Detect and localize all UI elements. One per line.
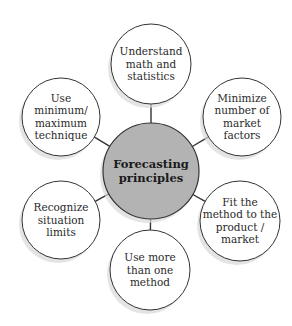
node-label-line: market	[223, 117, 262, 129]
principle-node-top: Understandmath andstatistics	[108, 24, 191, 108]
connector-lower-right	[193, 195, 205, 202]
connector-upper-left	[94, 137, 109, 146]
principle-node-bottom: Use morethan onemethod	[107, 230, 190, 314]
forecasting-principles-diagram: Understandmath andstatisticsMinimizenumb…	[0, 0, 292, 326]
node-label-line: Forecasting	[113, 157, 189, 171]
node-label-line: number of	[215, 104, 271, 116]
principle-node-upper-right: Minimizenumber ofmarketfactors	[200, 78, 281, 160]
principle-node-upper-left: Useminimum/maximumtechnique	[19, 78, 100, 160]
principle-node-lower-right: Fit themethod to theproduct /market	[197, 181, 280, 265]
node-label-line: Use	[51, 92, 71, 104]
node-label-line: statistics	[127, 70, 175, 82]
node-label-line: math and	[126, 58, 177, 70]
node-label-line: method to the	[203, 208, 278, 220]
node-label-line: method	[130, 276, 170, 288]
node-label-line: Minimize	[217, 92, 266, 104]
node-label-line: market	[221, 233, 260, 245]
node-label-line: maximum	[35, 117, 87, 129]
node-label-line: Understand	[120, 45, 183, 57]
node-label-line: product /	[216, 221, 265, 233]
node-label-line: factors	[224, 129, 261, 141]
node-label-line: than one	[127, 264, 174, 276]
node-label-line: Recognize	[34, 201, 89, 213]
node-label-line: Use more	[124, 251, 175, 263]
node-label-line: Fit the	[222, 196, 257, 208]
node-label-line: limits	[46, 226, 76, 238]
center-node: Forecastingprinciples	[100, 123, 199, 223]
node-label-line: minimum/	[34, 104, 88, 116]
node-label-line: principles	[119, 171, 183, 185]
node-label-line: technique	[35, 129, 88, 141]
node-label-line: situation	[38, 214, 85, 226]
principle-node-lower-left: Recognizesituationlimits	[19, 181, 100, 263]
